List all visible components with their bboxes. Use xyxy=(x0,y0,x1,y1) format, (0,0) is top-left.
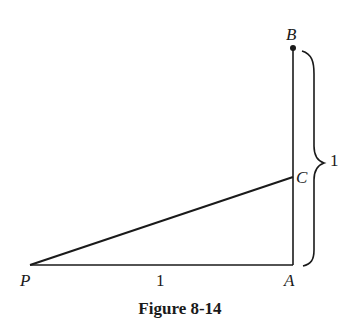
point-b-dot xyxy=(290,45,296,51)
figure-caption: Figure 8-14 xyxy=(138,299,222,318)
figure-8-14-diagram: B C P A 1 1 Figure 8-14 xyxy=(0,0,356,332)
label-p: P xyxy=(19,271,30,290)
brace-ab xyxy=(302,51,324,266)
label-c: C xyxy=(296,168,308,187)
label-ab-length: 1 xyxy=(330,151,339,170)
label-pa-length: 1 xyxy=(156,271,165,290)
label-a: A xyxy=(283,271,295,290)
segment-pc xyxy=(30,177,293,265)
label-b: B xyxy=(286,25,297,44)
